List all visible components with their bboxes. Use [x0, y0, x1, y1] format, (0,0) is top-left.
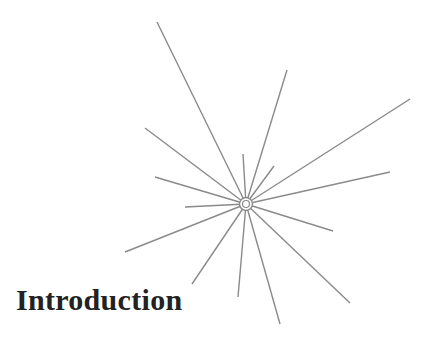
starburst-ray — [246, 204, 333, 231]
starburst-ray — [185, 204, 246, 207]
starburst-ray — [238, 204, 246, 297]
starburst-ray — [246, 99, 410, 204]
starburst-ray — [246, 204, 280, 324]
page-title: Introduction — [16, 285, 182, 315]
starburst-ray — [246, 70, 287, 204]
starburst-ray — [246, 172, 390, 204]
starburst-ray — [125, 204, 246, 252]
starburst-center-inner — [243, 201, 250, 208]
starburst-ray — [246, 204, 350, 303]
starburst-ray — [243, 154, 246, 204]
starburst-ray — [157, 22, 246, 204]
starburst-ray — [155, 177, 246, 204]
starburst-ray — [145, 128, 246, 204]
starburst-ray — [192, 204, 246, 284]
